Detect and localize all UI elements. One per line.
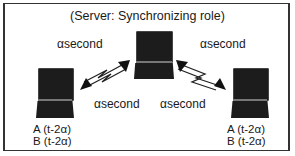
right-value-a: A (t-2α) xyxy=(227,123,266,135)
lightning-link-right xyxy=(178,65,220,90)
right-value-b: B (t-2α) xyxy=(227,135,266,147)
arrowhead-right-down xyxy=(214,78,226,90)
lightning-link-left xyxy=(84,65,126,86)
arrowhead-left-down xyxy=(80,78,92,90)
left-value-a: A (t-2α) xyxy=(33,123,72,135)
left-node-values: A (t-2α) B (t-2α) xyxy=(33,123,72,147)
left-value-b: B (t-2α) xyxy=(33,135,72,147)
right-node-values: A (t-2α) B (t-2α) xyxy=(227,123,266,147)
